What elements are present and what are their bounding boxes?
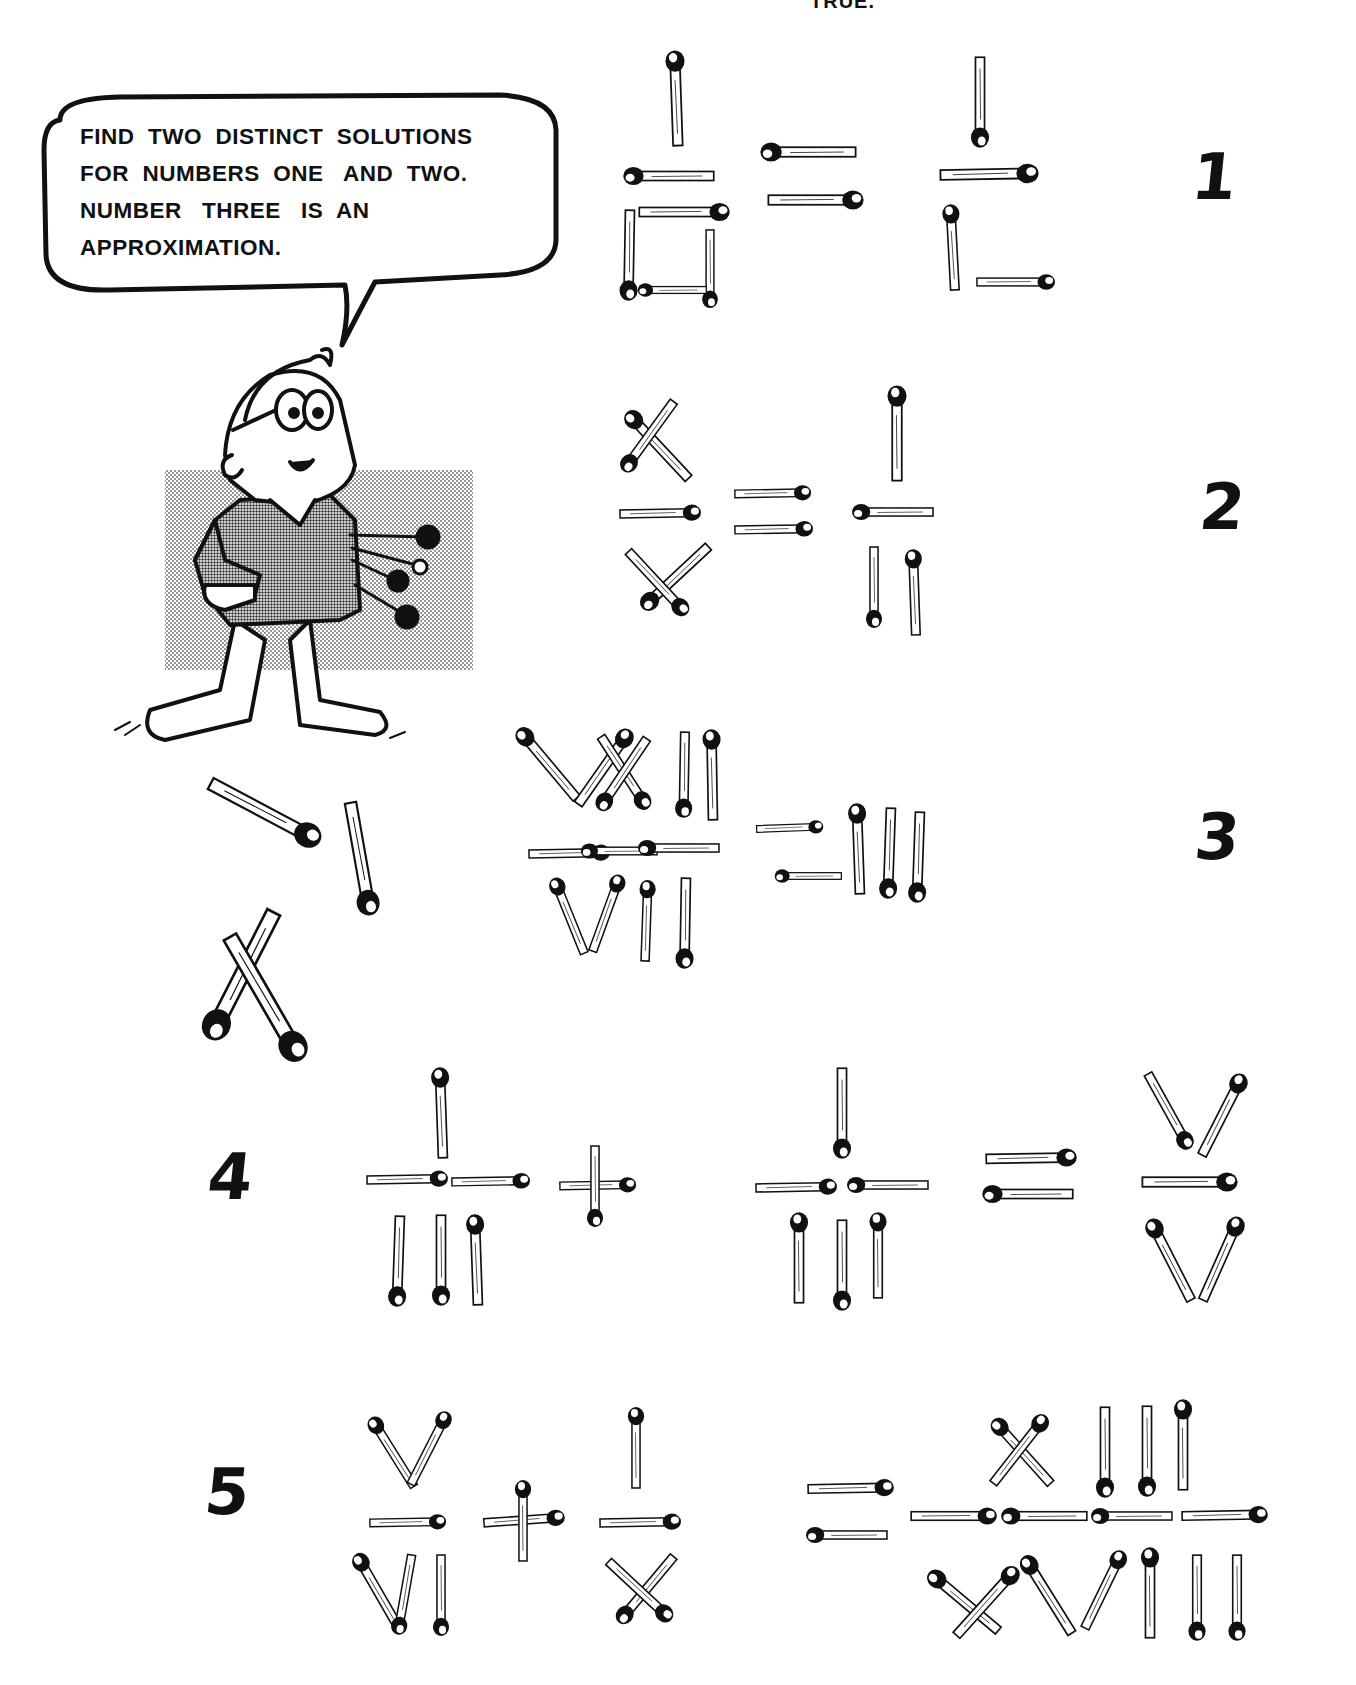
puzzle-1 xyxy=(619,50,1055,308)
puzzle-label-2: 2 xyxy=(1196,470,1248,544)
puzzle-page: TRUE. xyxy=(0,0,1356,1685)
puzzle-5 xyxy=(349,1399,1268,1641)
puzzle-label-1: 1 xyxy=(1188,140,1240,214)
loose-matches xyxy=(196,773,381,1068)
puzzle-label-3: 3 xyxy=(1191,800,1243,874)
puzzle-label-5: 5 xyxy=(201,1455,253,1529)
puzzle-4 xyxy=(367,1067,1251,1311)
puzzle-label-4: 4 xyxy=(204,1140,256,1214)
speech-bubble-text: FIND TWO DISTINCT SOLUTIONS FOR NUMBERS … xyxy=(80,118,550,266)
puzzle-2 xyxy=(616,385,933,635)
puzzle-3 xyxy=(511,723,929,969)
